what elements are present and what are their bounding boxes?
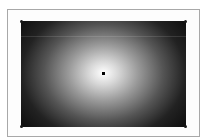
- resize-handle-bottom-right[interactable]: [184, 125, 187, 128]
- gradient-center-handle[interactable]: [102, 72, 105, 75]
- resize-handle-bottom-left[interactable]: [20, 125, 23, 128]
- resize-handle-top-right[interactable]: [184, 20, 187, 23]
- guide-line: [21, 36, 186, 37]
- resize-handle-top-left[interactable]: [20, 20, 23, 23]
